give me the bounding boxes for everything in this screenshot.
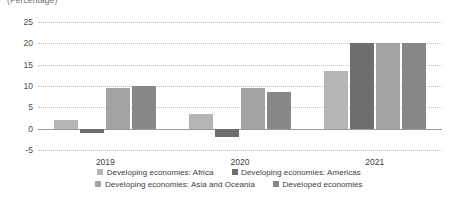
bar-groups: 201920202021 [38, 22, 442, 150]
bar [189, 114, 213, 129]
y-axis-tick-label: 25 [24, 17, 33, 27]
y-axis-tick-label: 5 [28, 102, 33, 112]
legend-item[interactable]: Developing economies: Americas [232, 168, 361, 177]
plot-area: 2520151050-5 201920202021 [38, 22, 442, 150]
y-axis-tick-label: 0 [28, 124, 33, 134]
bar-group: 2021 [307, 22, 442, 150]
bar [132, 86, 156, 129]
chart-root: (Percentage) 2520151050-5 201920202021 D… [0, 0, 458, 216]
bar [241, 88, 265, 129]
bar [376, 43, 400, 128]
legend-label: Developing economies: Asia and Oceania [105, 180, 255, 189]
legend-item[interactable]: Developing economies: Africa [97, 168, 213, 177]
y-axis-tick-label: 15 [24, 60, 33, 70]
bar [324, 71, 348, 129]
legend-row: Developing economies: Asia and OceaniaDe… [0, 178, 458, 190]
chart-legend: Developing economies: AfricaDeveloping e… [0, 166, 458, 190]
legend-swatch-icon [273, 181, 279, 187]
legend-label: Developed economies [282, 180, 362, 189]
legend-swatch-icon [97, 169, 103, 175]
y-axis-tick-label: 20 [24, 38, 33, 48]
y-axis-tick-label: 10 [24, 81, 33, 91]
legend-label: Developing economies: Africa [107, 168, 214, 177]
legend-item[interactable]: Developed economies [273, 180, 363, 189]
legend-swatch-icon [95, 181, 101, 187]
bar [80, 129, 104, 133]
bar [402, 43, 426, 128]
legend-row: Developing economies: AfricaDeveloping e… [0, 166, 458, 178]
bar-group: 2020 [173, 22, 308, 150]
unit-caption: (Percentage) [7, 0, 57, 5]
bar [350, 43, 374, 128]
bar [106, 88, 130, 129]
bar [215, 129, 239, 138]
bar [267, 92, 291, 128]
bar-group: 2019 [38, 22, 173, 150]
y-axis-tick-label: -5 [25, 145, 33, 155]
gridline [38, 150, 442, 151]
legend-item[interactable]: Developing economies: Asia and Oceania [95, 180, 255, 189]
legend-label: Developing economies: Americas [241, 168, 361, 177]
legend-swatch-icon [232, 169, 238, 175]
bar [54, 120, 78, 129]
